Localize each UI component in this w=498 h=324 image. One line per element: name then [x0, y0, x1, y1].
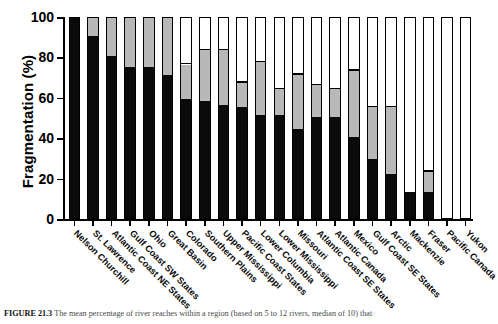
x-tick-mark	[372, 220, 374, 226]
bar	[329, 17, 341, 219]
bar-segment-divider	[256, 61, 266, 62]
bar-segment-divider	[200, 49, 210, 50]
bar	[385, 17, 397, 219]
bar-segment-moderately-fragmented	[424, 172, 434, 192]
bar	[292, 17, 304, 219]
bar-segment-strongly-fragmented	[386, 174, 396, 218]
bar-segment-strongly-fragmented	[219, 105, 229, 218]
x-tick-mark	[241, 220, 243, 226]
bar-segment-divider	[368, 106, 378, 107]
bar	[423, 17, 435, 219]
x-tick-mark	[204, 220, 206, 226]
bar-segment-strongly-fragmented	[349, 137, 359, 218]
bar-segment-moderately-fragmented	[293, 75, 303, 130]
x-tick-mark	[92, 220, 94, 226]
bar-segment-strongly-fragmented	[125, 67, 135, 219]
x-tick-mark	[111, 220, 113, 226]
y-axis-line	[63, 17, 65, 220]
bar	[218, 17, 230, 219]
bar-segment-moderately-fragmented	[349, 71, 359, 138]
y-tick-mark	[57, 219, 63, 221]
bar-segment-strongly-fragmented	[163, 75, 173, 218]
bar-segment-divider	[386, 106, 396, 107]
bar	[236, 17, 248, 219]
figure-caption: FIGURE 21.3 The mean percentage of river…	[4, 309, 482, 318]
bar-segment-moderately-fragmented	[88, 17, 98, 36]
bar	[69, 17, 81, 219]
bar-segment-divider	[275, 88, 285, 89]
bar-segment-strongly-fragmented	[256, 115, 266, 218]
bar	[87, 17, 99, 219]
bar	[124, 17, 136, 219]
x-tick-mark	[316, 220, 318, 226]
bar-segment-moderately-fragmented	[237, 83, 247, 107]
bar-segment-strongly-fragmented	[330, 117, 340, 218]
x-tick-mark	[409, 220, 411, 226]
y-tick-label: 40	[38, 130, 54, 146]
x-axis-line	[63, 219, 473, 221]
bar-segment-divider	[330, 88, 340, 89]
bar-segment-divider	[237, 81, 247, 82]
y-tick-label: 80	[38, 49, 54, 65]
bar-segment-divider	[293, 73, 303, 74]
x-tick-mark	[390, 220, 392, 226]
x-tick-mark	[129, 220, 131, 226]
bar-segment-strongly-fragmented	[293, 129, 303, 218]
y-tick-label: 0	[46, 211, 54, 227]
x-tick-mark	[465, 220, 467, 226]
bar	[106, 17, 118, 219]
bar-segment-divider	[424, 170, 434, 171]
bar-segment-strongly-fragmented	[144, 67, 154, 219]
bar-segment-strongly-fragmented	[107, 56, 117, 218]
bar-segment-moderately-fragmented	[275, 89, 285, 115]
y-tick-mark	[57, 98, 63, 100]
bar-segment-strongly-fragmented	[424, 192, 434, 218]
bar-segment-moderately-fragmented	[312, 85, 322, 117]
caption-figure-number: FIGURE 21.3	[4, 309, 52, 318]
y-tick-mark	[57, 17, 63, 19]
bar-segment-moderately-fragmented	[330, 89, 340, 117]
y-tick-mark	[57, 57, 63, 59]
caption-text: The mean percentage of river reaches wit…	[54, 309, 372, 318]
bar-segment-strongly-fragmented	[237, 107, 247, 218]
x-tick-mark	[279, 220, 281, 226]
bar-segment-divider	[181, 63, 191, 64]
bar	[404, 17, 416, 219]
bar-segment-moderately-fragmented	[125, 17, 135, 67]
y-tick-mark	[57, 179, 63, 181]
bar-segment-strongly-fragmented	[181, 99, 191, 218]
bar	[348, 17, 360, 219]
bar-segment-moderately-fragmented	[144, 17, 154, 67]
bar	[311, 17, 323, 219]
x-tick-mark	[446, 220, 448, 226]
bar-segment-moderately-fragmented	[386, 107, 396, 174]
y-tick-label: 100	[31, 9, 54, 25]
bar-segment-moderately-fragmented	[256, 62, 266, 115]
bar-segment-strongly-fragmented	[88, 36, 98, 218]
x-tick-mark	[223, 220, 225, 226]
bar	[199, 17, 211, 219]
bar	[274, 17, 286, 219]
bar-segment-moderately-fragmented	[163, 17, 173, 75]
bar	[180, 17, 192, 219]
x-tick-mark	[334, 220, 336, 226]
bar-segment-strongly-fragmented	[275, 115, 285, 218]
x-tick-mark	[74, 220, 76, 226]
x-tick-mark	[185, 220, 187, 226]
bar-segment-moderately-fragmented	[200, 50, 210, 101]
y-tick-label: 60	[38, 90, 54, 106]
bar-segment-divider	[219, 49, 229, 50]
y-tick-label: 20	[38, 171, 54, 187]
bar-segment-strongly-fragmented	[70, 17, 80, 218]
bar-segment-strongly-fragmented	[368, 159, 378, 218]
bar-segment-moderately-fragmented	[219, 50, 229, 105]
x-tick-mark	[428, 220, 430, 226]
x-tick-mark	[353, 220, 355, 226]
bar-segment-strongly-fragmented	[405, 192, 415, 218]
bar	[143, 17, 155, 219]
bar	[367, 17, 379, 219]
y-tick-mark	[57, 138, 63, 140]
bar-segment-moderately-fragmented	[181, 65, 191, 99]
bar-segment-strongly-fragmented	[200, 101, 210, 218]
